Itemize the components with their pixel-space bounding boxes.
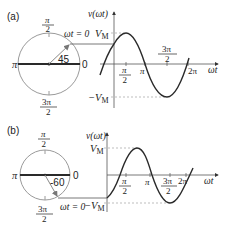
panel-b-label: (b) — [7, 125, 19, 136]
vmax-label-b: VM — [90, 143, 104, 156]
tick-pi-over-2-num-a: π — [122, 65, 127, 75]
start-label-a: ωt = 0 — [64, 29, 90, 39]
panel-a: (a) 45 π 2 3π 2 π 0 ωt = 0 — [7, 9, 218, 117]
phasor-sine-diagram: (a) 45 π 2 3π 2 π 0 ωt = 0 — [0, 0, 229, 234]
bottom-label-num-a: 3π — [42, 97, 52, 107]
x-axis-label-a: ωt — [208, 65, 218, 75]
tick-pi-b: π — [145, 177, 150, 187]
vmin-label-a: −VM — [88, 92, 109, 105]
right-label-a: 0 — [82, 59, 88, 70]
tick-pi-over-2-den-b: 2 — [123, 186, 128, 196]
y-axis-label-a: v(ωt) — [88, 9, 108, 20]
graph-b: v(ωt) ωt VM −VM π 2 π 3π 2 2π — [84, 131, 218, 213]
angle-label-a: 45 — [58, 54, 70, 65]
tick-3pi-over-2-den-a: 2 — [165, 54, 170, 64]
sine-curve-a — [100, 33, 189, 97]
bottom-label-den-b: 2 — [42, 214, 47, 224]
x-axis-label-b: ωt — [204, 176, 214, 186]
tick-3pi-over-2-num-a: 3π — [162, 44, 172, 54]
top-label-den-a: 2 — [46, 24, 51, 34]
angle-label-b: -60 — [50, 177, 65, 188]
tick-3pi-over-2-num-b: 3π — [163, 176, 173, 186]
bottom-label-num-b: 3π — [38, 204, 48, 214]
y-axis-label-b: v(ωt) — [86, 131, 106, 142]
tick-3pi-over-2-den-b: 2 — [166, 186, 171, 196]
tick-pi-over-2-den-a: 2 — [123, 75, 128, 85]
graph-a: v(ωt) ωt VM −VM π 2 π 3π 2 2π — [88, 9, 218, 108]
left-label-b: π — [12, 170, 18, 181]
tick-pi-over-2-num-b: π — [122, 176, 127, 186]
left-label-a: π — [12, 59, 18, 70]
panel-a-label: (a) — [7, 11, 19, 22]
vmin-label-b: −VM — [84, 200, 105, 213]
panel-b: (b) -60 π 2 3π 2 π 0 ωt = 0 v(ωt) ωt — [7, 125, 218, 224]
top-label-num-b: π — [41, 129, 46, 139]
top-label-den-b: 2 — [42, 139, 47, 149]
tick-pi-a: π — [140, 66, 145, 76]
right-label-b: 0 — [73, 170, 79, 181]
vmax-label-a: VM — [95, 28, 109, 41]
tick-2pi-b: 2π — [178, 176, 188, 186]
tick-2pi-a: 2π — [188, 66, 198, 76]
start-label-b: ωt = 0 — [60, 202, 86, 212]
bottom-label-den-a: 2 — [46, 107, 51, 117]
